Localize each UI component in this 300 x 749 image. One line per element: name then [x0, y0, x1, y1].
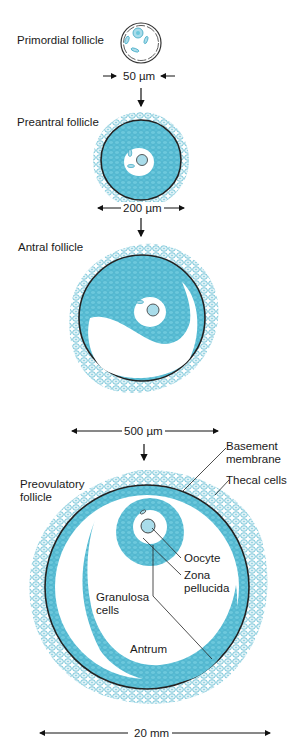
- label-preovulatory-follicle: Preovulatory follicle: [20, 478, 85, 504]
- scale-500um: 500 µm: [122, 425, 165, 438]
- label-preantral-follicle: Preantral follicle: [17, 116, 99, 129]
- label-granulosa-line1: Granulosa: [96, 591, 149, 604]
- label-antral-follicle: Antral follicle: [18, 241, 83, 254]
- scale-200um: 200 µm: [121, 202, 164, 215]
- follicle-development-diagram: [0, 0, 300, 749]
- scale-20mm: 20 mm: [132, 727, 171, 740]
- label-basement-line1: Basement: [226, 440, 281, 453]
- label-oocyte: Oocyte: [184, 552, 220, 565]
- antral-follicle: [69, 244, 218, 393]
- label-zona-line1: Zona: [184, 569, 229, 582]
- label-preovulatory-line2: follicle: [20, 491, 85, 504]
- label-granulosa-line2: cells: [96, 604, 149, 617]
- label-primordial-follicle: Primordial follicle: [17, 34, 104, 47]
- label-granulosa-cells: Granulosa cells: [96, 591, 149, 617]
- label-preovulatory-line1: Preovulatory: [20, 478, 85, 491]
- label-zona-pellucida: Zona pellucida: [184, 569, 229, 595]
- preovulatory-follicle: [29, 470, 267, 704]
- label-thecal-cells: Thecal cells: [226, 474, 287, 487]
- label-basement-line2: membrane: [226, 453, 281, 466]
- label-antrum: Antrum: [130, 643, 167, 656]
- label-basement-membrane: Basement membrane: [226, 440, 281, 466]
- primordial-follicle: [121, 23, 161, 63]
- scale-50um: 50 µm: [121, 70, 157, 83]
- preantral-follicle: [93, 112, 189, 208]
- label-zona-line2: pellucida: [184, 582, 229, 595]
